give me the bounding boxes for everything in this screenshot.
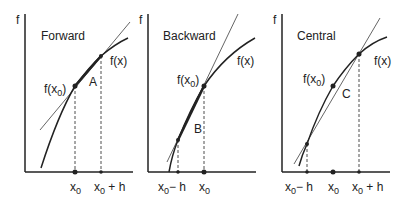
region-label: B [194,122,202,136]
tick-x0 [73,170,78,175]
tick-x0h [357,170,361,174]
fx0-label: f(x0) [303,72,325,88]
point-fx0h [357,52,362,57]
tick-label: x0 + h [94,180,125,196]
fx-label: f(x) [237,54,254,68]
panel-title: Central [297,29,336,43]
finite-difference-diagram: f Forward f(x0) f(x) A x0 x0 + h f Backw… [0,0,410,200]
region-label: A [89,75,97,89]
tick-label: x0− h [158,180,186,196]
y-axis-label: f [273,13,277,27]
point-fx0 [331,84,336,89]
panel-backward: f Backward f(x0) f(x) B x0− h x0 [139,13,256,196]
panel-title: Backward [163,29,216,43]
region-label: C [342,87,351,101]
fx0-label: f(x0) [44,82,66,98]
point-fx0mh [176,138,180,142]
tick-x0 [202,170,207,175]
tick-label: x0 [328,180,339,196]
point-fx0mh [305,142,309,146]
fx-label: f(x) [374,54,391,68]
panel-forward: f Forward f(x0) f(x) A x0 x0 + h [16,13,133,196]
panel-title: Forward [41,29,85,43]
tick-x0 [331,170,336,175]
y-axis-label: f [139,13,143,27]
tick-x0mh [305,170,309,174]
fx0-label: f(x0) [177,73,199,89]
point-fx0 [202,84,207,89]
tick-label: x0 + h [352,180,383,196]
tick-label: x0− h [285,180,313,196]
tick-x0mh [176,170,180,174]
panel-central: f Central f(x0) f(x) C x0− h x0 x0 + h [273,13,391,196]
tick-label: x0 [199,180,210,196]
point-fx0h [99,54,103,58]
point-fx0 [73,84,78,89]
tick-label: x0 [70,180,81,196]
y-axis-label: f [16,13,20,27]
tick-x0h [99,170,103,174]
secant-segment [75,56,101,86]
fx-label: f(x) [110,54,127,68]
